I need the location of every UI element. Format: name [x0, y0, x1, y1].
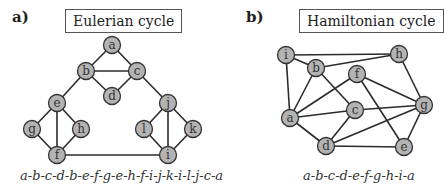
node-a: a: [104, 37, 121, 54]
svg-text:b: b: [312, 61, 320, 75]
node-i: i: [278, 47, 295, 64]
svg-text:i: i: [284, 48, 288, 62]
node-j: j: [160, 95, 177, 112]
node-k: k: [185, 121, 202, 138]
svg-text:l: l: [142, 122, 146, 136]
node-h: h: [391, 46, 408, 63]
node-b: b: [308, 60, 325, 77]
node-c: c: [347, 102, 364, 119]
svg-text:g: g: [28, 122, 36, 136]
hamiltonian-caption: a-b-c-d-e-f-g-h-i-a: [303, 168, 415, 183]
node-b: b: [78, 63, 95, 80]
graph-canvas: abcdeghfjlkiihbfacgde: [0, 0, 444, 193]
node-d: d: [104, 88, 121, 105]
node-i: i: [160, 147, 177, 164]
svg-text:h: h: [77, 122, 85, 136]
svg-text:d: d: [108, 89, 116, 103]
node-l: l: [136, 121, 153, 138]
node-f: f: [49, 147, 66, 164]
svg-text:k: k: [189, 122, 197, 136]
svg-text:g: g: [420, 98, 428, 112]
node-a: a: [282, 110, 299, 127]
edge-i-a: [286, 55, 290, 118]
eulerian-graph: abcdeghfjlki: [24, 37, 202, 164]
node-g: g: [24, 121, 41, 138]
svg-text:e: e: [53, 96, 60, 110]
node-e: e: [49, 95, 66, 112]
node-c: c: [129, 63, 146, 80]
svg-text:h: h: [395, 47, 403, 61]
svg-text:i: i: [166, 148, 170, 162]
node-e: e: [396, 139, 413, 156]
node-g: g: [416, 97, 433, 114]
node-h: h: [73, 121, 90, 138]
edge-d-e: [326, 146, 404, 147]
svg-text:d: d: [322, 139, 330, 153]
svg-text:b: b: [82, 64, 90, 78]
svg-text:a: a: [108, 38, 115, 52]
node-d: d: [318, 138, 335, 155]
edge-i-h: [286, 54, 399, 55]
eulerian-caption: a-b-c-d-b-e-f-g-e-h-f-i-j-k-i-l-j-c-a: [20, 168, 223, 183]
svg-text:c: c: [134, 64, 141, 78]
svg-text:e: e: [400, 140, 407, 154]
node-f: f: [349, 66, 366, 83]
hamiltonian-graph: ihbfacgde: [278, 46, 433, 156]
svg-text:c: c: [352, 103, 359, 117]
svg-text:a: a: [286, 111, 293, 125]
